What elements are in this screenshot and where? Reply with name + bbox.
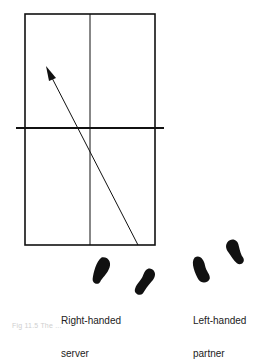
partner-label-line2: partner: [193, 348, 246, 359]
partner-footprints: [190, 238, 246, 285]
server-label: Right-handed server: [61, 293, 121, 363]
partner-label-line1: Left-handed: [193, 315, 246, 326]
figure-caption: Fig 11.5 The ...: [12, 322, 62, 329]
footprint-icon: [224, 238, 247, 267]
footprint-icon: [190, 255, 211, 285]
serve-direction-arrow: [46, 66, 138, 245]
server-footprints: [91, 256, 157, 298]
partner-label: Left-handed partner: [193, 293, 246, 363]
arrowhead-icon: [46, 66, 56, 81]
server-label-line1: Right-handed: [61, 315, 121, 326]
footprint-icon: [91, 256, 112, 286]
server-label-line2: server: [61, 348, 121, 359]
footprint-icon: [134, 266, 157, 298]
